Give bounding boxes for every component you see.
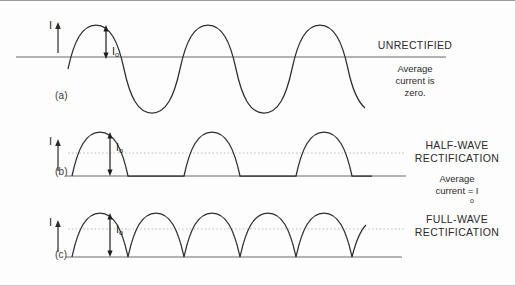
panel-a-group xyxy=(16,22,446,113)
panel-c-current-axis-arrowhead xyxy=(55,220,61,227)
panel-b-note-subscript: o xyxy=(470,197,474,204)
panel-c-amplitude-arrowhead-bottom xyxy=(107,251,112,258)
panel-c-title-line-2: RECTIFICATION xyxy=(415,226,499,239)
panel-a-axis-letter: I xyxy=(49,19,52,31)
panel-c-group xyxy=(55,213,406,257)
panel-a-note-line-3: zero. xyxy=(395,87,434,99)
panel-a-note-line-1: Average xyxy=(395,63,434,75)
panel-a-amplitude-arrowhead-top xyxy=(103,25,108,32)
panel-c-amplitude-label: Io xyxy=(116,223,123,235)
panel-a-amplitude-arrowhead-bottom xyxy=(103,53,108,60)
panel-b-title: HALF-WAVE RECTIFICATION xyxy=(415,139,499,164)
panel-b-halfwave-curve xyxy=(72,132,372,176)
panel-b-note-line-1: Average xyxy=(435,173,478,185)
panel-a-title: UNRECTIFIED xyxy=(378,39,452,52)
rectification-figure: I Io (a) UNRECTIFIED Average current is … xyxy=(0,0,515,286)
panel-a-note-line-2: current is xyxy=(395,75,434,87)
panel-b-amplitude-arrowhead-top xyxy=(107,132,112,139)
panel-label-a: (a) xyxy=(55,90,68,101)
panel-label-c: (c) xyxy=(55,249,67,260)
panel-a-sine-wave xyxy=(68,25,365,113)
panel-a-current-axis-arrowhead xyxy=(55,22,61,29)
panel-c-title: FULL-WAVE RECTIFICATION xyxy=(415,213,499,238)
panel-b-note: Average current = I xyxy=(435,173,478,197)
panel-c-title-line-1: FULL-WAVE xyxy=(415,213,499,226)
panel-b-amplitude-arrowhead-bottom xyxy=(107,170,112,177)
panel-b-current-axis-arrowhead xyxy=(55,139,61,146)
panel-a-note: Average current is zero. xyxy=(395,63,434,99)
panel-b-note-line-2: current = I xyxy=(435,185,478,197)
panel-c-amplitude-arrowhead-top xyxy=(107,213,112,220)
panel-b-group xyxy=(55,132,406,176)
panel-c-axis-letter: I xyxy=(49,216,52,228)
panel-b-amplitude-label: Io xyxy=(116,141,123,153)
panel-b-axis-letter: I xyxy=(49,135,52,147)
panel-c-fullwave-curve xyxy=(72,213,366,257)
panel-label-b: (b) xyxy=(55,166,68,177)
panel-b-title-line-1: HALF-WAVE xyxy=(415,139,499,152)
panel-b-title-line-2: RECTIFICATION xyxy=(415,152,499,165)
panel-a-amplitude-label: Io xyxy=(112,45,119,57)
